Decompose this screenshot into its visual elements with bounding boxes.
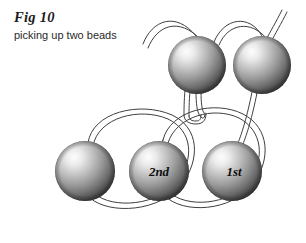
upper-bead-row — [168, 36, 291, 94]
figure-container: Fig 10 picking up two beads — [0, 0, 306, 243]
lower-middle-bead-label: 2nd — [148, 164, 170, 179]
lower-bead-row: 2nd 1st — [55, 141, 262, 201]
lower-right-bead-label: 1st — [226, 164, 242, 179]
lower-right-bead: 1st — [202, 141, 262, 201]
beadwork-diagram: 2nd 1st — [0, 0, 306, 243]
thread-from-upper-right-bead — [238, 92, 257, 144]
lower-middle-bead: 2nd — [129, 141, 189, 201]
upper-right-bead — [233, 36, 291, 94]
lower-left-bead — [55, 141, 115, 201]
upper-left-bead — [168, 36, 226, 94]
thread-hook-loop — [184, 90, 206, 124]
